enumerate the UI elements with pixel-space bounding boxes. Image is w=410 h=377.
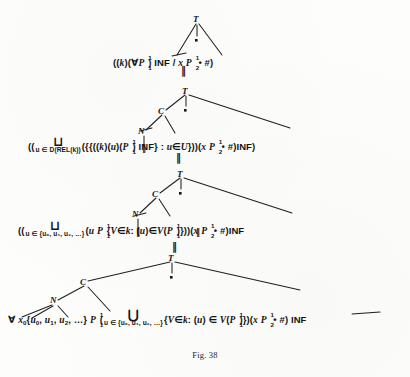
l1-inf-overline	[172, 53, 186, 56]
tok-rparen: )	[252, 141, 255, 152]
elem-icon: ∈	[174, 314, 183, 325]
tok-x: x	[253, 315, 258, 325]
tok-sub-2: 2	[211, 232, 215, 239]
tok-ellipsis: …	[74, 314, 84, 325]
tok-sub-2: 2	[219, 148, 223, 155]
elem-icon: ∈	[117, 225, 126, 236]
tok-U: U	[181, 142, 188, 152]
pred-p2-1: P21	[186, 57, 196, 68]
tok-lparen: (	[21, 225, 24, 236]
tok-sub-1: 1	[148, 64, 152, 71]
l2-stem-right	[189, 95, 290, 128]
equals-marker-2: ‖	[176, 154, 181, 162]
tok-inf: INF	[229, 225, 245, 236]
l2-node-dot	[184, 109, 187, 112]
tok-sub-1: 1	[177, 232, 181, 239]
l2-c-to-right	[165, 116, 175, 133]
join-subscript: u ∈ D(REL(k))	[36, 147, 81, 153]
tok-P: P	[209, 142, 215, 152]
figure-container: T T C N T C N T C N ‖ ‖ ‖ ((k)(∀P11) INF…	[0, 0, 410, 377]
formula-level-4: ∀ x0{u0, u1, u2, …} P11(⋃u ∈ {u₀, u₁, u₂…	[8, 313, 307, 328]
tok-P: P	[167, 226, 173, 236]
tok-sup-1: 1	[271, 311, 275, 318]
tok-x: x	[178, 58, 183, 68]
join-subscript: u ∈ {u₀, u₁, u₂, …}	[26, 231, 85, 237]
tok-sub-1: 1	[107, 232, 111, 239]
tok-rparen: )	[210, 57, 213, 68]
tok-comma: ,	[39, 314, 42, 325]
elem-icon: ∈	[208, 314, 217, 325]
node-label-n-level3: N	[132, 209, 139, 219]
tok-sup-1: 1	[100, 311, 104, 318]
tok-sup-1: 1	[239, 311, 243, 318]
inner-equals-level2: ‖	[142, 145, 146, 153]
tok-P: P	[201, 226, 207, 236]
pred-p2-1: P21	[261, 314, 271, 325]
tok-sub-2: 2	[196, 64, 200, 71]
l4-stem-right	[175, 262, 300, 290]
l2-c-to-n	[146, 115, 162, 130]
tok-inf: INF	[236, 141, 252, 152]
tok-sub-1: 1	[100, 321, 104, 328]
tok-rparen: )	[202, 314, 205, 325]
formula-level-3: ((⊔u ∈ {u₀, u₁, u₂, …}(u P11{V∈k: (u)∈V(…	[18, 224, 244, 239]
tok-colon: :	[188, 314, 191, 325]
node-label-c-level4: C	[80, 277, 86, 287]
node-label-c-level2: C	[158, 106, 164, 116]
join-icon: ⊔	[26, 221, 85, 230]
tok-P: P	[230, 315, 236, 325]
l1-branch-left	[177, 24, 196, 55]
tok-sup-1: 1	[132, 138, 136, 145]
l3-c-to-n	[140, 198, 156, 213]
node-label-t-level3: T	[177, 169, 183, 179]
formula-level-1: ((k)(∀P11) INF / x P21 • #)	[113, 57, 213, 68]
inner-equals-level3-a: ‖	[136, 229, 140, 237]
tok-sub-2: 2	[271, 321, 275, 328]
elem-icon: ∈	[172, 141, 181, 152]
l4-c-to-right	[88, 287, 110, 311]
tok-P: P	[261, 315, 267, 325]
union-icon: ⋃	[104, 310, 163, 319]
tok-rbrace: }	[154, 141, 158, 152]
node-label-t-level4: T	[168, 253, 174, 263]
equals-marker-1: ‖	[181, 67, 186, 75]
tok-P: P	[138, 58, 144, 68]
node-label-t-level1: T	[193, 14, 199, 24]
pred-p1-1: P11	[123, 141, 133, 152]
pred-p1-1: P11	[167, 225, 177, 236]
node-label-n-level4: N	[50, 295, 57, 305]
l3-stem-left	[160, 178, 180, 193]
tok-sup-1: 1	[211, 222, 215, 229]
tok-u: u	[89, 226, 94, 236]
l1-branch-right	[199, 24, 222, 55]
tok-sup-1: 1	[107, 222, 111, 229]
node-label-t-level2: T	[182, 86, 188, 96]
tok-colon: :	[161, 141, 164, 152]
tok-sup-1: 1	[177, 222, 181, 229]
l4-node-dot	[170, 276, 173, 279]
tok-P: P	[123, 142, 129, 152]
tok-sup-1: 1	[148, 54, 152, 61]
pred-p2-1: P21	[209, 141, 219, 152]
tok-sup-1: 1	[196, 54, 200, 61]
pred-p1-1: P11	[230, 314, 240, 325]
tok-inf: INF	[139, 141, 155, 152]
join-operator-level3: ⊔u ∈ {u₀, u₁, u₂, …}	[26, 224, 85, 239]
pred-p1-1: P11	[138, 57, 148, 68]
node-label-c-level3: C	[152, 189, 158, 199]
tok-comma: ,	[68, 314, 71, 325]
union-operator-level4: ⋃u ∈ {u₀, u₁, u₂, …}	[104, 313, 163, 328]
l3-stem-right	[184, 178, 292, 213]
tok-inf: INF	[154, 57, 170, 68]
tok-sub-1: 1	[239, 321, 243, 328]
tok-rbrace: }	[83, 314, 87, 325]
node-label-n-level2: N	[138, 126, 145, 136]
tok-rparen: )	[285, 314, 288, 325]
l3-node-dot	[179, 192, 182, 195]
forall-icon: ∀	[131, 57, 138, 68]
join-icon: ⊔	[36, 137, 81, 146]
pred-p1-1: P11	[90, 314, 100, 325]
l2-stem-left	[166, 95, 185, 110]
tok-x: x	[201, 142, 206, 152]
pred-p1-1: P11	[97, 225, 107, 236]
